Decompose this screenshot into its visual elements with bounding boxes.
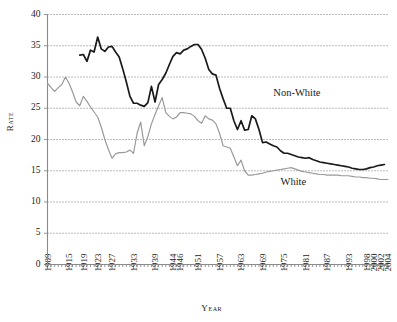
x-tick-label: 1946: [175, 253, 185, 272]
y-tick-label: 5: [36, 227, 41, 237]
y-tick-label: 20: [31, 134, 41, 144]
x-tick-label: 1951: [193, 254, 203, 272]
y-tick-label: 35: [31, 40, 41, 50]
y-tick-label: 15: [31, 165, 41, 175]
x-tick-label: 1957: [215, 253, 225, 272]
series-label-white: White: [280, 176, 306, 187]
y-axis-title: Rate: [5, 112, 15, 131]
x-tick-label: 1987: [322, 253, 332, 272]
chart-background: [0, 0, 397, 322]
y-tick-label: 10: [31, 196, 41, 206]
x-tick-label: 1919: [79, 253, 89, 272]
x-tick-label: 1993: [344, 253, 354, 272]
x-tick-label: 1933: [129, 253, 139, 272]
rate-by-year-line-chart: 0510152025303540 19091915191919231927193…: [0, 0, 397, 322]
x-tick-label: 1939: [150, 253, 160, 272]
y-tick-label: 40: [31, 9, 41, 19]
x-tick-label: 1963: [236, 253, 246, 272]
y-tick-label: 25: [31, 102, 41, 112]
x-tick-label: 2004: [383, 253, 393, 272]
series-label-non-white: Non-White: [273, 87, 321, 98]
x-tick-label: 1981: [301, 254, 311, 272]
y-tick-label: 0: [36, 259, 41, 269]
x-tick-label: 1927: [107, 253, 117, 272]
x-tick-label: 1969: [258, 253, 268, 272]
x-axis-title: Year: [201, 303, 222, 313]
y-tick-label: 30: [31, 71, 41, 81]
x-tick-label: 1923: [93, 253, 103, 272]
x-tick-label: 1915: [64, 253, 74, 272]
x-tick-label: 1975: [279, 253, 289, 272]
chart-container: 0510152025303540 19091915191919231927193…: [0, 0, 397, 322]
